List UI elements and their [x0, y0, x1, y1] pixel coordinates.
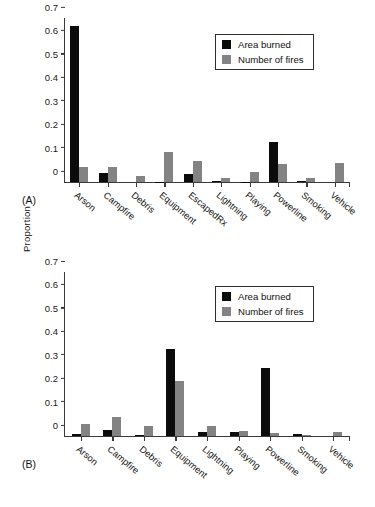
x-labels-a: ArsonCampfireDebrisEquipmentEscapedRxLig…: [65, 182, 349, 242]
legend-entry-area-burned: Area burned: [222, 291, 304, 302]
bar-group: [65, 18, 93, 182]
y-tick-label: 0: [53, 420, 65, 431]
bar: [99, 173, 108, 182]
y-tick-label: 0.7: [45, 256, 65, 267]
bar-group: [97, 272, 129, 436]
legend-entry-area-burned: Area burned: [222, 39, 304, 50]
legend-swatch-icon: [222, 40, 231, 49]
x-label-slot: Debris: [128, 436, 160, 496]
figure: Proportion (A) 00.10.20.30.40.50.60.7 Ar…: [0, 0, 375, 507]
bar: [79, 167, 88, 182]
bar: [269, 142, 278, 182]
x-label-slot: Equipment: [150, 182, 178, 242]
x-label-slot: Playing: [223, 436, 255, 496]
bar-group: [321, 18, 349, 182]
y-tick-label: 0.3: [45, 95, 65, 106]
legend-swatch-icon: [222, 292, 231, 301]
y-tick-label: 0.6: [45, 279, 65, 290]
legend-entry-number-of-fires: Number of fires: [222, 54, 304, 65]
bar: [70, 26, 79, 183]
bar-group: [93, 18, 121, 182]
x-label-slot: Smoking: [286, 436, 318, 496]
bar-group: [65, 272, 97, 436]
bar-group: [128, 272, 160, 436]
legend-label: Area burned: [238, 39, 291, 50]
legend-label: Number of fires: [238, 54, 304, 65]
bar-group: [179, 18, 207, 182]
bar: [166, 349, 175, 436]
x-label-slot: Arson: [65, 182, 93, 242]
bar: [112, 417, 121, 436]
bar: [184, 174, 193, 182]
y-tick-label: 0.7: [45, 2, 65, 13]
y-tick-label: 0.5: [45, 48, 65, 59]
x-label-slot: Campfire: [97, 436, 129, 496]
bar: [250, 172, 259, 182]
bar: [193, 161, 202, 182]
panel-a: (A) 00.10.20.30.40.50.60.7 ArsonCampfire…: [0, 4, 375, 254]
x-tick-label: Vehicle: [327, 444, 356, 471]
legend-a: Area burned Number of fires: [215, 34, 314, 70]
bar: [207, 426, 216, 436]
bar-group: [160, 272, 192, 436]
y-tick-label: 0.2: [45, 119, 65, 130]
y-tick-label: 0.1: [45, 396, 65, 407]
bar: [81, 424, 90, 436]
bar-group: [318, 272, 350, 436]
x-tick-label: Vehicle: [328, 190, 357, 217]
y-tick-label: 0.1: [45, 142, 65, 153]
y-tick-label: 0.2: [45, 373, 65, 384]
legend-b: Area burned Number of fires: [215, 286, 314, 322]
y-tick-label: 0.4: [45, 72, 65, 83]
panel-b-label: (B): [22, 458, 36, 470]
legend-swatch-icon: [222, 307, 231, 316]
y-tick-label: 0.3: [45, 349, 65, 360]
legend-entry-number-of-fires: Number of fires: [222, 306, 304, 317]
bar-group: [122, 18, 150, 182]
bar-group: [150, 18, 178, 182]
x-label-slot: Debris: [122, 182, 150, 242]
x-label-slot: Campfire: [93, 182, 121, 242]
legend-label: Number of fires: [238, 306, 304, 317]
bar: [108, 167, 117, 182]
bar: [144, 426, 153, 436]
panel-a-label: (A): [22, 194, 36, 206]
x-labels-b: ArsonCampfireDebrisEquipmentLightningPla…: [65, 436, 349, 496]
x-label-slot: Playing: [235, 182, 263, 242]
y-tick-label: 0.5: [45, 302, 65, 313]
x-label-slot: Smoking: [292, 182, 320, 242]
x-label-slot: Powerline: [254, 436, 286, 496]
x-label-slot: Lightning: [207, 182, 235, 242]
x-label-slot: EscapedRx: [179, 182, 207, 242]
y-tick-label: 0: [53, 166, 65, 177]
x-label-slot: Arson: [65, 436, 97, 496]
bar: [261, 368, 270, 436]
legend-swatch-icon: [222, 55, 231, 64]
y-tick-label: 0.6: [45, 25, 65, 36]
legend-label: Area burned: [238, 291, 291, 302]
x-label-slot: Vehicle: [318, 436, 350, 496]
x-label-slot: Vehicle: [321, 182, 349, 242]
y-tick-label: 0.4: [45, 326, 65, 337]
x-label-slot: Powerline: [264, 182, 292, 242]
x-label-slot: Lightning: [191, 436, 223, 496]
bar: [175, 381, 184, 436]
panel-b: (B) 00.10.20.30.40.50.60.7 ArsonCampfire…: [0, 258, 375, 507]
bar: [164, 152, 173, 182]
x-label-slot: Equipment: [160, 436, 192, 496]
bar: [335, 163, 344, 182]
bar: [278, 164, 287, 182]
